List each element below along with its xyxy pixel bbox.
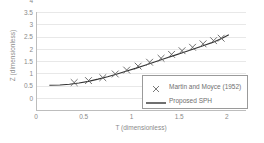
x-axis-title: T (dimensionless) — [36, 124, 246, 131]
data-point-marker — [218, 35, 225, 42]
x-tick-label: 2 — [215, 113, 239, 120]
y-tick-label: 1.5 — [3, 58, 33, 65]
y-axis-title: Z (dimensionless) — [9, 8, 16, 104]
data-point-marker — [158, 55, 165, 62]
y-tick-label: 4 — [3, 0, 33, 4]
legend-item-martin-moyce: Martin and Moyce (1952) — [143, 79, 249, 94]
x-tick-label: 0 — [24, 113, 48, 120]
legend-label-proposed-sph: Proposed SPH — [169, 97, 212, 104]
x-tick-label: 1 — [119, 113, 143, 120]
data-point-marker — [146, 59, 153, 66]
legend-item-proposed-sph: Proposed SPH — [143, 93, 249, 108]
chart-legend: Martin and Moyce (1952) Proposed SPH — [142, 75, 248, 109]
x-tick-label: 0.5 — [72, 113, 96, 120]
y-tick-label: 3.5 — [3, 9, 33, 16]
y-tick-label: 1 — [3, 70, 33, 77]
x-marker-icon — [143, 81, 169, 93]
y-tick-label: 0 — [3, 95, 33, 102]
x-axis-line — [36, 110, 246, 111]
y-tick-label: 3 — [3, 21, 33, 28]
x-tick-label: 1.5 — [167, 113, 191, 120]
y-tick-label: 2.5 — [3, 33, 33, 40]
y-axis-ticks: 00.511.522.533.54 — [0, 0, 33, 98]
y-tick-label: 2 — [3, 46, 33, 53]
chart-container: 00.511.522.533.54 00.511.52 T (dimension… — [0, 0, 264, 143]
data-point-marker — [71, 79, 78, 86]
y-tick-label: 0.5 — [3, 82, 33, 89]
legend-label-martin-moyce: Martin and Moyce (1952) — [169, 83, 241, 90]
line-marker-icon — [143, 95, 169, 107]
